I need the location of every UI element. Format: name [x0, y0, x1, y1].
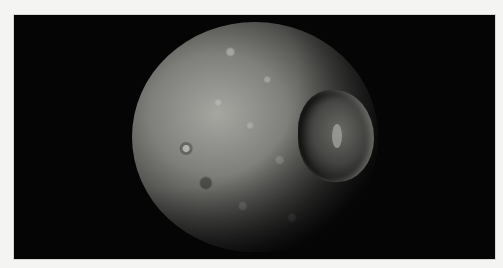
- large-crater: [298, 90, 374, 182]
- central-peak: [332, 124, 342, 148]
- photo-frame: [14, 15, 495, 259]
- moon-body: [132, 22, 378, 252]
